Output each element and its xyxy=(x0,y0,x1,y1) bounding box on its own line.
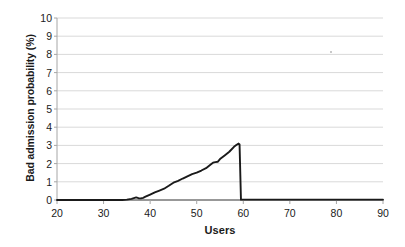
x-tick-label: 60 xyxy=(223,208,263,219)
x-axis-tick-labels: 2030405060708090 xyxy=(0,0,405,247)
x-tick-label: 80 xyxy=(316,208,356,219)
chart-container: Bad admission probability (%) 0123456789… xyxy=(0,0,405,247)
x-tick-label: 30 xyxy=(84,208,124,219)
x-tick-label: 90 xyxy=(363,208,403,219)
x-tick-label: 40 xyxy=(130,208,170,219)
x-tick-label: 20 xyxy=(37,208,77,219)
scan-speck-artifact xyxy=(330,51,332,53)
x-axis-title: Users xyxy=(57,224,383,236)
x-tick-label: 50 xyxy=(177,208,217,219)
x-tick-label: 70 xyxy=(270,208,310,219)
